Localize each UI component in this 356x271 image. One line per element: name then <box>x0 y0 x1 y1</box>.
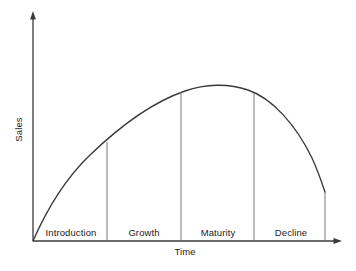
stage-label-decline: Decline <box>257 227 325 238</box>
stage-label-maturity: Maturity <box>184 227 252 238</box>
y-axis-arrow-icon <box>30 11 36 20</box>
x-axis-arrow-icon <box>334 238 343 244</box>
product-life-cycle-chart: Introduction Growth Maturity Decline Tim… <box>0 0 356 271</box>
stage-label-introduction: Introduction <box>36 227 106 238</box>
y-axis-title: Sales <box>13 108 24 152</box>
x-axis <box>33 238 342 244</box>
stage-label-growth: Growth <box>110 227 178 238</box>
y-axis <box>30 11 36 241</box>
sales-curve <box>33 85 325 241</box>
x-axis-title: Time <box>155 246 215 257</box>
